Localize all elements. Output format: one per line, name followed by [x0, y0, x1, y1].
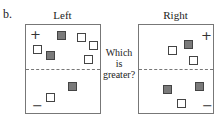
empty-square [77, 33, 86, 42]
filled-square [163, 85, 172, 94]
filled-square [184, 40, 193, 49]
plus-sign: + [201, 29, 212, 42]
filled-square [68, 82, 77, 91]
filled-square [46, 51, 55, 60]
filled-square [195, 82, 204, 91]
right-panel: + − [138, 24, 214, 114]
empty-square [84, 55, 93, 64]
empty-square [168, 46, 177, 55]
empty-square [33, 45, 42, 54]
filled-square [57, 31, 66, 40]
left-panel: + − [25, 24, 101, 114]
empty-square [89, 41, 98, 50]
right-panel-label: Right [138, 9, 213, 21]
dashed-divider [139, 69, 213, 70]
empty-square [189, 56, 198, 65]
question-text: Which is greater? [99, 47, 139, 80]
part-label: b. [3, 7, 12, 22]
empty-square [177, 99, 186, 108]
dashed-divider [26, 69, 100, 70]
minus-sign: − [202, 99, 213, 112]
minus-sign: − [32, 99, 43, 112]
plus-sign: + [30, 28, 41, 41]
left-panel-label: Left [25, 9, 100, 21]
empty-square [46, 93, 55, 102]
